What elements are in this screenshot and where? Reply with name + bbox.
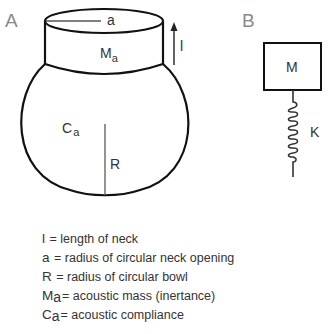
legend-symbol: C — [42, 307, 52, 322]
legend-text: = length of neck — [46, 232, 138, 246]
legend-symbol: a — [42, 250, 50, 265]
acoustic-mass-symbol: M — [100, 45, 112, 61]
acoustic-mass-label: Ma — [100, 45, 119, 64]
legend-item: l = length of neck — [42, 229, 234, 248]
panel-b-label: B — [242, 10, 255, 31]
neck-length-arrow-head-icon — [171, 22, 178, 31]
legend-text: = acoustic mass (inertance) — [62, 289, 215, 303]
neck-base-arc — [45, 64, 163, 74]
compliance-label: Ca — [62, 120, 80, 138]
bowl-radius-label: R — [110, 156, 120, 172]
legend-item: Ma= acoustic mass (inertance) — [42, 286, 234, 305]
panel-a-label: A — [5, 10, 18, 31]
legend-symbol: l — [42, 231, 45, 246]
neck-radius-label: a — [107, 12, 115, 28]
mass-label: M — [286, 59, 298, 75]
neck-length-label: l — [180, 38, 183, 54]
legend-item: Ca= acoustic compliance — [42, 305, 234, 324]
legend-symbol: R — [42, 269, 52, 284]
compliance-symbol: C — [62, 120, 72, 136]
legend-text: = radius of circular neck opening — [51, 251, 235, 265]
legend-subscript: a — [52, 308, 60, 324]
acoustic-mass-subscript: a — [112, 52, 119, 64]
legend-subscript: a — [53, 289, 61, 305]
legend-item: R = radius of circular bowl — [42, 267, 234, 286]
spring — [289, 90, 298, 177]
legend: l = length of neck a = radius of circula… — [42, 229, 234, 324]
compliance-subscript: a — [73, 126, 80, 138]
spring-label: K — [310, 124, 320, 140]
legend-item: a = radius of circular neck opening — [42, 248, 234, 267]
legend-symbol: M — [42, 288, 53, 303]
legend-text: = radius of circular bowl — [53, 270, 188, 284]
legend-text: = acoustic compliance — [61, 308, 184, 322]
